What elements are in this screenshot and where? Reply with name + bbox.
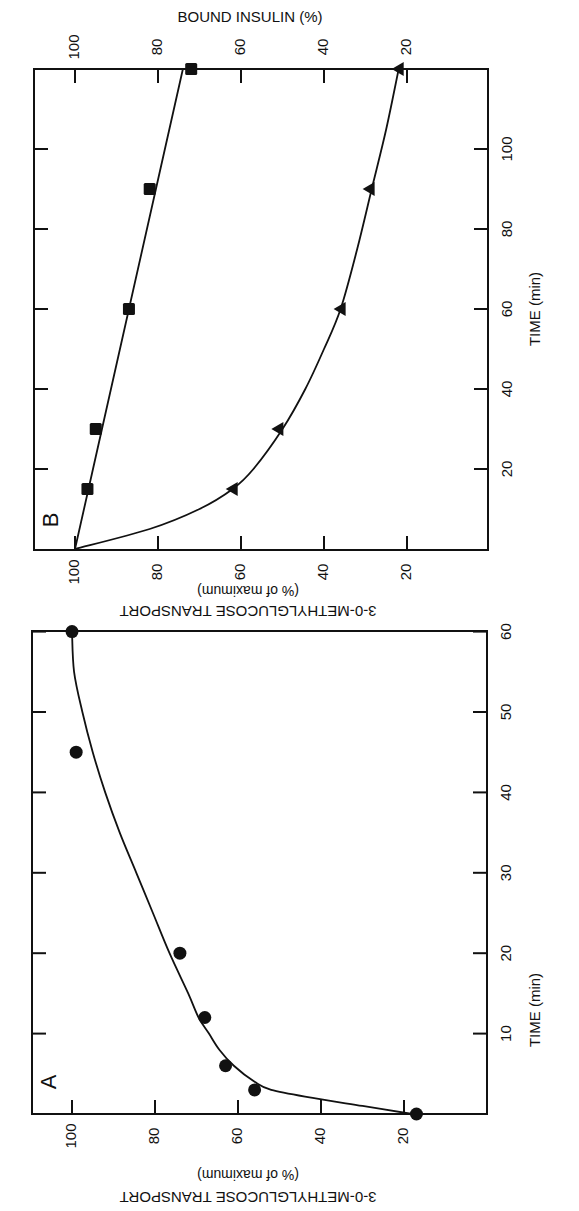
time-tick-label: 30: [497, 864, 514, 881]
data-point-circle: [70, 746, 83, 759]
data-point-triangle: [226, 482, 238, 496]
time-tick-label: 50: [497, 704, 514, 721]
data-point-circle: [248, 1083, 261, 1096]
panel-b-label: B: [38, 513, 63, 528]
panel-a-frame: [32, 631, 487, 1114]
data-point-circle: [219, 1059, 232, 1072]
bound-insulin-tick-label: 20: [397, 39, 414, 56]
bound-insulin-tick-label: 80: [148, 39, 165, 56]
data-point-square: [90, 423, 102, 435]
bound-insulin-tick-label: 40: [314, 39, 331, 56]
value-tick-label: 60: [228, 1128, 245, 1145]
time-tick-label: 10: [497, 1025, 514, 1042]
figure: 204060801002040608010020406080100 B BOUN…: [0, 0, 579, 1211]
data-point-square: [81, 483, 93, 495]
time-tick-label: 60: [498, 301, 515, 318]
data-point-circle: [173, 947, 186, 960]
data-point-circle: [66, 625, 79, 638]
panel-b-transport-title: 3-0-METHYLGLUCOSE TRANSPORT: [120, 603, 377, 620]
panel-b-transport-sub: (% of maximum): [197, 583, 299, 599]
data-point-triangle: [363, 182, 375, 196]
data-point-circle: [198, 1011, 211, 1024]
panel-b-time-axis-title: TIME (min): [526, 272, 543, 346]
data-point-square: [185, 63, 197, 75]
data-point-triangle: [271, 422, 283, 436]
panel-a-ticks: 20406080100102030405060: [32, 623, 514, 1148]
value-tick-label: 100: [65, 559, 82, 584]
panel-a-label: A: [36, 1074, 61, 1089]
panel-a: 20406080100102030405060 A TIME (min) (% …: [32, 623, 543, 1206]
bound-insulin-tick-label: 100: [65, 34, 82, 59]
panel-b: 204060801002040608010020406080100 B BOUN…: [34, 8, 543, 620]
value-tick-label: 80: [148, 564, 165, 581]
value-tick-label: 40: [311, 1128, 328, 1145]
time-tick-label: 20: [497, 945, 514, 962]
time-tick-label: 40: [498, 381, 515, 398]
value-tick-label: 60: [231, 564, 248, 581]
value-tick-label: 80: [145, 1128, 162, 1145]
fit-curve: [72, 632, 412, 1114]
panel-b-ticks: 204060801002040608010020406080100: [34, 34, 515, 584]
panel-a-markers: [66, 625, 423, 1120]
panel-b-markers: [81, 62, 403, 496]
panel-a-time-axis-title: TIME (min): [526, 973, 543, 1047]
value-tick-label: 40: [314, 564, 331, 581]
value-tick-label: 20: [397, 564, 414, 581]
panel-a-curves: [72, 632, 412, 1114]
time-tick-label: 60: [497, 623, 514, 640]
bound-insulin-tick-label: 60: [231, 39, 248, 56]
panel-b-frame: [34, 69, 488, 550]
time-tick-label: 40: [497, 784, 514, 801]
panel-a-transport-sub: (% of maximum): [197, 1167, 299, 1183]
time-tick-label: 80: [498, 221, 515, 238]
data-point-circle: [410, 1108, 423, 1121]
time-tick-label: 100: [498, 136, 515, 161]
time-tick-label: 20: [498, 461, 515, 478]
data-point-square: [144, 183, 156, 195]
data-point-square: [123, 303, 135, 315]
panel-a-transport-title: 3-0-METHYLGLUCOSE TRANSPORT: [120, 1189, 377, 1206]
bound-insulin-axis-title: BOUND INSULIN (%): [177, 8, 322, 25]
value-tick-label: 20: [394, 1128, 411, 1145]
value-tick-label: 100: [62, 1123, 79, 1148]
